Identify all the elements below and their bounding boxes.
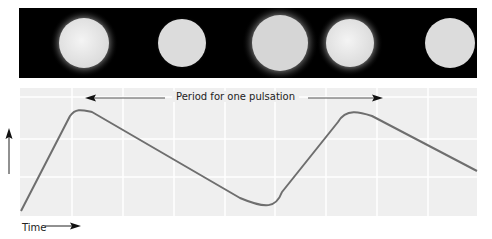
time-axis-label: Time (22, 222, 46, 233)
period-label: Period for one pulsation (172, 91, 299, 102)
star-5 (423, 16, 477, 70)
star-3 (242, 8, 318, 78)
brightness-arrow-icon (4, 128, 14, 174)
star-images-band (19, 8, 477, 78)
grid-lines (20, 88, 477, 216)
light-curve-plot (20, 88, 477, 216)
star-2 (155, 16, 209, 70)
light-curve (21, 110, 477, 211)
star-1 (50, 9, 118, 77)
star-images (19, 8, 477, 78)
brightness-graph (20, 88, 477, 216)
star-4 (317, 10, 383, 76)
time-arrow-icon (45, 221, 81, 231)
